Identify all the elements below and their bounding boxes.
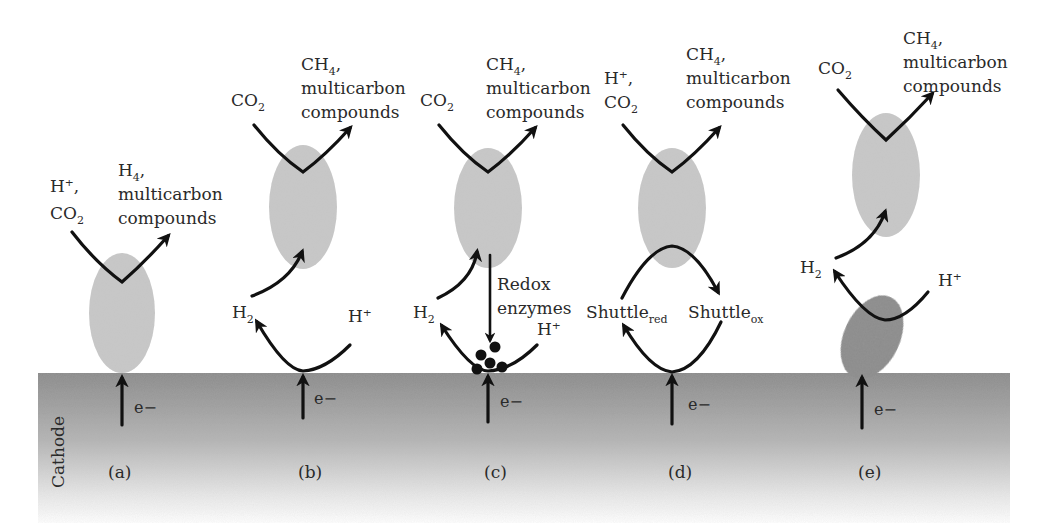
cathode-label: Cathode (48, 416, 68, 488)
electron-label: e− (134, 398, 157, 417)
output-label-line2: multicarbon (686, 68, 791, 88)
output-label-line3: compounds (301, 102, 400, 122)
mediator-right-label: H⁺ (537, 319, 561, 339)
output-label-line2: multicarbon (301, 78, 406, 98)
panel-caption: (a) (108, 462, 131, 482)
microbe-cell (89, 253, 155, 373)
mediator-left-label: Shuttlered (586, 302, 668, 326)
mediator-left-label: H2 (800, 257, 822, 281)
microbe-cell (638, 148, 706, 268)
cathode: Cathode (38, 373, 1010, 523)
electron-label: e− (874, 400, 897, 419)
electron-label: e− (500, 392, 523, 411)
output-label: CH4, (686, 44, 726, 68)
output-label: CH4, (903, 28, 943, 52)
panel-caption: (b) (298, 462, 322, 482)
shuttle-reduction-arrow (624, 322, 721, 372)
panel-caption: (c) (484, 462, 507, 482)
output-label-line2: multicarbon (903, 52, 1008, 72)
output-label: CH4, (301, 54, 341, 78)
input-label: H⁺, (50, 176, 79, 196)
panel-caption: (d) (668, 462, 692, 482)
cathode-surface (38, 373, 1010, 523)
bioelectrochemical-diagram: Cathode e− H⁺, CO2 H4, multicarbon compo… (0, 0, 1056, 523)
output-label-line3: compounds (486, 102, 585, 122)
mediator-right-label: Shuttleox (688, 302, 764, 326)
output-label-line3: compounds (903, 76, 1002, 96)
enzyme-label: Redox (497, 274, 551, 294)
input-label: CO2 (818, 58, 852, 82)
mediator-left-label: H2 (413, 302, 435, 326)
mediator-right-label: H⁺ (938, 270, 962, 290)
output-label-line3: compounds (118, 208, 217, 228)
mediator-left-label: H2 (232, 302, 254, 326)
microbe-cell (852, 113, 920, 237)
mediator-right-label: H⁺ (348, 306, 372, 326)
output-label: CH4, (486, 54, 526, 78)
output-label-line2: multicarbon (486, 78, 591, 98)
input-label: CO2 (420, 90, 454, 114)
enzyme-label-line2: enzymes (497, 298, 571, 318)
microbe-cell (454, 148, 522, 268)
output-label-line2: multicarbon (118, 184, 223, 204)
input-label: H⁺, (604, 68, 633, 88)
input-label: CO2 (231, 90, 265, 114)
proton-reduction-arrow (257, 322, 350, 371)
electron-label: e− (314, 389, 337, 408)
output-label: H4, (118, 160, 145, 184)
output-label-line3: compounds (686, 92, 785, 112)
electron-label: e− (688, 395, 711, 414)
input-label-line2: CO2 (50, 203, 84, 227)
panel-caption: (e) (858, 462, 881, 482)
microbe-cell (269, 145, 337, 269)
input-label-line2: CO2 (604, 92, 638, 116)
